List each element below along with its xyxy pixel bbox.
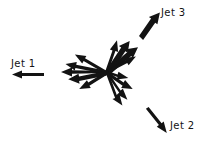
jet1-direction-arrow — [12, 70, 44, 78]
jet3-label: Jet 3 — [161, 7, 186, 18]
jet3-track-group — [105, 40, 138, 75]
jet2-label: Jet 2 — [170, 120, 195, 131]
jet1-track-group — [61, 55, 108, 90]
jet2-direction-arrow — [146, 107, 167, 133]
jet3-direction-arrow — [139, 13, 160, 40]
jet2-track-group — [106, 71, 133, 106]
jet1-label: Jet 1 — [11, 58, 36, 69]
jet-event-figure: Jet 1 Jet 3 Jet 2 — [0, 0, 207, 145]
